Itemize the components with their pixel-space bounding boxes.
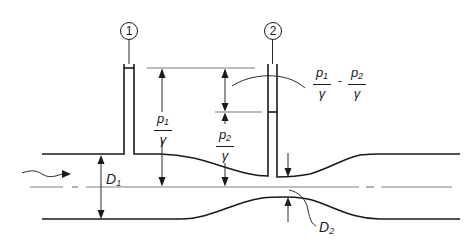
- d2-arrowhead-down-icon: [285, 168, 292, 177]
- d1-arrowhead-down-icon: [98, 210, 105, 219]
- d1-symbol: D: [106, 171, 116, 187]
- d2-symbol: D: [319, 219, 329, 235]
- d2-subscript: 2: [329, 226, 334, 236]
- d1-label: D1: [106, 172, 121, 188]
- station-1-marker: 1: [120, 22, 138, 40]
- dp-arrowhead-up-icon: [222, 69, 229, 79]
- fraction-bar: [348, 84, 366, 85]
- p1-arrowhead-down-icon: [159, 177, 166, 187]
- head-diff-left-fraction: p1 γ: [313, 66, 331, 100]
- pipe-top-wall: [42, 64, 460, 177]
- d2-label: D2: [319, 220, 334, 236]
- p2-arrowhead-down-icon: [222, 177, 229, 187]
- p2-subscript: 2: [226, 133, 231, 143]
- diagram-graphics: [0, 0, 476, 244]
- p1-subscript: 1: [164, 117, 169, 127]
- p1-over-gamma-label: p1 γ: [154, 112, 172, 146]
- gamma-symbol: γ: [154, 133, 172, 146]
- fraction-bar: [216, 146, 234, 147]
- p2-over-gamma-label: p2 γ: [216, 128, 234, 162]
- gamma-symbol: γ: [313, 87, 331, 100]
- d2-leader: [289, 190, 316, 226]
- gamma-symbol: γ: [216, 149, 234, 162]
- flow-arrow: [22, 171, 62, 177]
- p1-subscript: 1: [323, 71, 328, 81]
- head-diff-right-fraction: p2 γ: [348, 66, 366, 100]
- p2-subscript: 2: [358, 71, 363, 81]
- station-2-marker: 2: [264, 22, 282, 40]
- d1-subscript: 1: [116, 178, 121, 188]
- dp-arrowhead-down-icon: [222, 103, 229, 112]
- p1-arrowhead-up-icon: [159, 69, 166, 79]
- minus-operator: -: [338, 74, 342, 88]
- fraction-bar: [313, 84, 331, 85]
- flow-arrowhead-icon: [62, 170, 71, 178]
- gamma-symbol: γ: [348, 87, 366, 100]
- d1-arrowhead-up-icon: [98, 155, 105, 164]
- fraction-bar: [154, 130, 172, 131]
- venturi-diagram: 1 2 p1 γ p2 γ p1 γ - p2 γ D1 D2: [0, 0, 476, 244]
- pipe-bottom-wall: [42, 197, 460, 219]
